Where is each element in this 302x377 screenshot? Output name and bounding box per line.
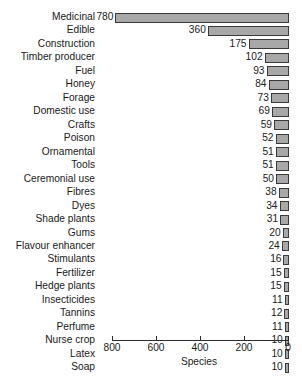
x-tick-label: 0 xyxy=(268,342,302,354)
value-label: 15 xyxy=(242,267,282,280)
chart-row: Forage73 xyxy=(0,92,302,105)
bar-wrap: 16 xyxy=(0,253,302,266)
x-tick xyxy=(200,336,201,340)
bar xyxy=(249,39,290,49)
bar xyxy=(284,309,289,319)
bar-wrap: 12 xyxy=(0,307,302,320)
x-tick xyxy=(112,336,113,340)
value-label: 16 xyxy=(241,253,281,266)
bar xyxy=(208,26,289,36)
bar xyxy=(267,66,289,76)
bar-wrap: 69 xyxy=(0,105,302,118)
chart-row: Gums20 xyxy=(0,227,302,240)
value-label: 51 xyxy=(234,146,274,159)
bar-wrap: 15 xyxy=(0,267,302,280)
bar-wrap: 34 xyxy=(0,200,302,213)
value-label: 24 xyxy=(240,240,280,253)
value-label: 12 xyxy=(242,307,282,320)
chart-row: Dyes34 xyxy=(0,200,302,213)
bar xyxy=(276,174,289,184)
value-label: 59 xyxy=(232,119,272,132)
chart-row: Crafts59 xyxy=(0,119,302,132)
chart-row: Honey84 xyxy=(0,78,302,91)
chart-row: Insecticides11 xyxy=(0,294,302,307)
value-label: 73 xyxy=(229,92,269,105)
chart-row: Fibres38 xyxy=(0,186,302,199)
bar-wrap: 175 xyxy=(0,38,302,51)
chart-row: Timber producer102 xyxy=(0,51,302,64)
bar-wrap: 73 xyxy=(0,92,302,105)
bar-wrap: 59 xyxy=(0,119,302,132)
value-label: 69 xyxy=(230,105,270,118)
x-tick-label: 400 xyxy=(180,342,220,354)
bar xyxy=(283,228,289,238)
value-label: 780 xyxy=(73,11,113,24)
value-label: 84 xyxy=(227,78,267,91)
chart-row: Tannins12 xyxy=(0,307,302,320)
bar-wrap: 11 xyxy=(0,294,302,307)
bar-wrap: 20 xyxy=(0,227,302,240)
x-tick xyxy=(244,336,245,340)
bar-wrap: 51 xyxy=(0,159,302,172)
value-label: 11 xyxy=(243,294,283,307)
x-axis-title-text: Species xyxy=(181,356,217,367)
chart-row: Poison52 xyxy=(0,132,302,145)
bar xyxy=(276,147,289,157)
bar-wrap: 15 xyxy=(0,280,302,293)
bar xyxy=(279,188,289,198)
value-label: 34 xyxy=(238,200,278,213)
chart-row: Ceremonial use50 xyxy=(0,173,302,186)
value-label: 51 xyxy=(234,159,274,172)
bar xyxy=(276,161,289,171)
bar xyxy=(115,13,289,23)
bar xyxy=(282,241,289,251)
value-label: 93 xyxy=(225,65,265,78)
chart-row: Shade plants31 xyxy=(0,213,302,226)
bar-wrap: 93 xyxy=(0,65,302,78)
chart-row: Fertilizer15 xyxy=(0,267,302,280)
value-label: 50 xyxy=(234,173,274,186)
bar-wrap: 11 xyxy=(0,321,302,334)
bar xyxy=(280,201,289,211)
x-axis-line xyxy=(112,340,288,341)
bar-wrap: 38 xyxy=(0,186,302,199)
bar xyxy=(276,134,289,144)
chart-row: Domestic use69 xyxy=(0,105,302,118)
bar xyxy=(284,268,289,278)
value-label: 360 xyxy=(166,24,206,37)
bar-wrap: 360 xyxy=(0,24,302,37)
bar-wrap: 24 xyxy=(0,240,302,253)
chart-row: Medicinal780 xyxy=(0,11,302,24)
bar xyxy=(272,107,289,117)
value-label: 15 xyxy=(242,280,282,293)
chart-row: Ornamental51 xyxy=(0,146,302,159)
chart-row: Fuel93 xyxy=(0,65,302,78)
bar-wrap: 52 xyxy=(0,132,302,145)
value-label: 102 xyxy=(223,51,263,64)
bar-chart: Medicinal780Edible360Construction175Timb… xyxy=(0,0,302,377)
bar xyxy=(283,255,289,265)
x-tick-label: 600 xyxy=(136,342,176,354)
chart-row: Tools51 xyxy=(0,159,302,172)
bar xyxy=(265,53,289,63)
x-tick-label: 200 xyxy=(224,342,264,354)
chart-row: Perfume11 xyxy=(0,321,302,334)
chart-row: Stimulants16 xyxy=(0,253,302,266)
bar xyxy=(271,93,289,103)
x-tick xyxy=(288,336,289,340)
x-tick-label: 800 xyxy=(92,342,132,354)
bar-wrap: 780 xyxy=(0,11,302,24)
value-label: 31 xyxy=(238,213,278,226)
chart-plot-area: Medicinal780Edible360Construction175Timb… xyxy=(0,11,302,375)
bar-wrap: 50 xyxy=(0,173,302,186)
value-label: 20 xyxy=(241,227,281,240)
bar xyxy=(280,215,289,225)
bar-wrap: 84 xyxy=(0,78,302,91)
bar xyxy=(269,80,289,90)
x-axis-title: Species xyxy=(0,356,302,368)
bar xyxy=(285,295,289,305)
chart-row: Edible360 xyxy=(0,24,302,37)
x-tick xyxy=(156,336,157,340)
bar-wrap: 102 xyxy=(0,51,302,64)
chart-row: Hedge plants15 xyxy=(0,280,302,293)
